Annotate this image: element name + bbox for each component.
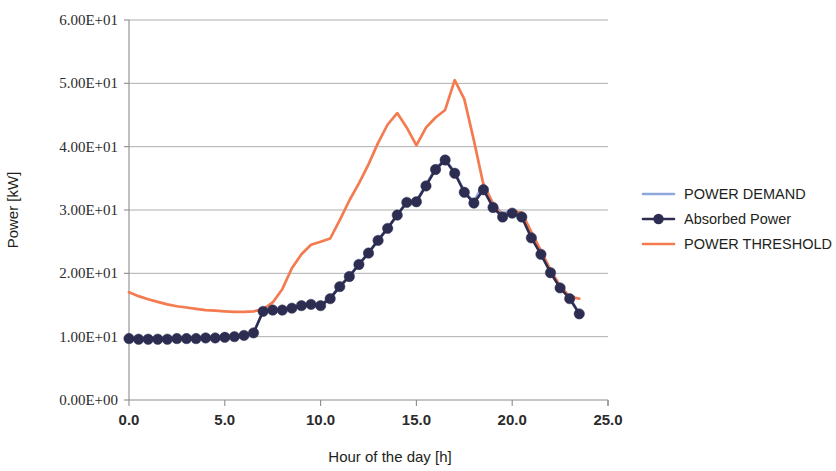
- data-point-marker: [287, 303, 297, 313]
- data-point-marker: [344, 271, 354, 281]
- data-point-marker: [536, 249, 546, 259]
- power-chart: 0.00E+001.00E+012.00E+013.00E+014.00E+01…: [0, 0, 836, 471]
- data-point-marker: [545, 268, 555, 278]
- data-point-marker: [354, 259, 364, 269]
- data-point-marker: [402, 197, 412, 207]
- data-point-marker: [363, 248, 373, 258]
- data-point-marker: [478, 185, 488, 195]
- data-point-marker: [450, 168, 460, 178]
- data-point-marker: [382, 223, 392, 233]
- series-line: [129, 159, 579, 339]
- data-point-marker: [574, 309, 584, 319]
- x-tick-label: 20.0: [498, 411, 527, 428]
- data-point-marker: [411, 197, 421, 207]
- data-point-marker: [430, 164, 440, 174]
- data-point-marker: [124, 333, 134, 343]
- x-tick-labels: 0.05.010.015.020.025.0: [119, 411, 623, 428]
- data-point-marker: [564, 293, 574, 303]
- data-point-marker: [373, 235, 383, 245]
- y-tick-labels: 0.00E+001.00E+012.00E+013.00E+014.00E+01…: [59, 12, 118, 408]
- y-axis-title: Power [kW]: [4, 172, 21, 249]
- data-point-marker: [239, 330, 249, 340]
- data-point-marker: [526, 233, 536, 243]
- data-point-marker: [258, 306, 268, 316]
- data-point-marker: [335, 281, 345, 291]
- data-point-marker: [488, 202, 498, 212]
- legend-item: POWER DEMAND: [643, 186, 806, 202]
- y-tick-label: 6.00E+01: [59, 12, 118, 28]
- data-point-marker: [315, 300, 325, 310]
- data-point-marker: [440, 155, 450, 165]
- data-point-marker: [459, 187, 469, 197]
- y-tick-label: 3.00E+01: [59, 202, 118, 218]
- data-point-marker: [555, 283, 565, 293]
- chart-canvas: 0.00E+001.00E+012.00E+013.00E+014.00E+01…: [0, 0, 836, 471]
- data-point-marker: [497, 212, 507, 222]
- data-point-marker: [210, 333, 220, 343]
- y-tick-label: 0.00E+00: [59, 392, 118, 408]
- chart-legend: POWER DEMANDAbsorbed PowerPOWER THRESHOL…: [643, 186, 832, 252]
- data-point-marker: [507, 208, 517, 218]
- x-tick-label: 5.0: [214, 411, 235, 428]
- data-point-marker: [200, 333, 210, 343]
- x-axis-title: Hour of the day [h]: [328, 448, 451, 465]
- data-point-marker: [172, 333, 182, 343]
- legend-label: POWER DEMAND: [684, 186, 806, 202]
- data-point-marker: [469, 198, 479, 208]
- y-tick-label: 4.00E+01: [59, 139, 118, 155]
- data-point-marker: [392, 210, 402, 220]
- data-point-marker: [229, 331, 239, 341]
- data-point-marker: [306, 299, 316, 309]
- legend-swatch-marker: [653, 214, 663, 224]
- data-point-marker: [325, 293, 335, 303]
- series-plot-area: [124, 80, 585, 344]
- data-point-marker: [153, 334, 163, 344]
- data-point-marker: [133, 334, 143, 344]
- data-point-marker: [181, 333, 191, 343]
- data-point-marker: [162, 334, 172, 344]
- data-point-marker: [220, 332, 230, 342]
- x-tick-label: 25.0: [593, 411, 622, 428]
- x-tick-label: 15.0: [402, 411, 431, 428]
- data-point-marker: [296, 300, 306, 310]
- data-point-marker: [191, 333, 201, 343]
- series-power-demand: [129, 159, 579, 339]
- x-tick-label: 10.0: [306, 411, 335, 428]
- grid-lines: [129, 20, 608, 337]
- legend-item: POWER THRESHOLD: [643, 236, 832, 252]
- x-tick-label: 0.0: [119, 411, 140, 428]
- data-point-marker: [248, 328, 258, 338]
- legend-label: Absorbed Power: [684, 211, 791, 227]
- data-point-marker: [277, 305, 287, 315]
- x-axis: [129, 400, 608, 406]
- legend-label: POWER THRESHOLD: [684, 236, 832, 252]
- legend-item: Absorbed Power: [643, 211, 791, 227]
- y-tick-label: 5.00E+01: [59, 75, 118, 91]
- y-tick-label: 2.00E+01: [59, 265, 118, 281]
- data-point-marker: [517, 212, 527, 222]
- data-point-marker: [143, 334, 153, 344]
- data-point-marker: [421, 181, 431, 191]
- series-absorbed-power: [124, 155, 585, 345]
- series-line: [129, 160, 579, 339]
- data-point-marker: [268, 305, 278, 315]
- y-tick-label: 1.00E+01: [59, 329, 118, 345]
